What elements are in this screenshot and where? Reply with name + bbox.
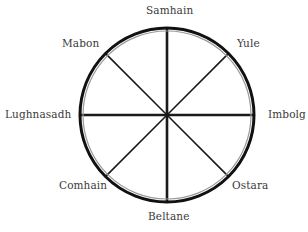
spoke-bottom-right <box>167 115 228 176</box>
spoke-top-left <box>106 54 167 115</box>
spoke-top-right <box>167 54 228 115</box>
label-samhain: Samhain <box>146 4 193 16</box>
label-beltane: Beltane <box>148 210 189 222</box>
label-lughnasadh: Lughnasadh <box>5 108 71 120</box>
label-imbolg: Imbolg <box>268 108 306 120</box>
label-comhain: Comhain <box>59 179 107 191</box>
label-ostara: Ostara <box>232 179 268 191</box>
label-yule: Yule <box>237 37 260 49</box>
label-mabon: Mabon <box>62 37 99 49</box>
spoke-bottom-left <box>106 115 167 176</box>
spokes <box>81 29 253 201</box>
